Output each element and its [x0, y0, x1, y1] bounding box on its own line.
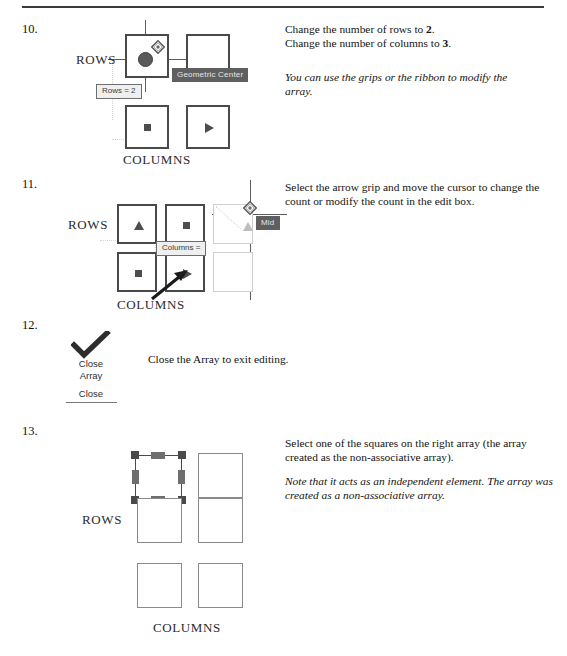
close-array-button-line1[interactable]: Close [66, 358, 116, 370]
document-page: 10. Geometric Center Rows = 2 RO [0, 0, 567, 656]
step-number-13: 13. [22, 424, 38, 439]
rows-axis-label-13: ROWS [82, 512, 122, 528]
base-point-glyph [144, 124, 151, 131]
close-array-button-line2[interactable]: Array [66, 370, 116, 382]
selection-grip-top-right[interactable] [178, 451, 186, 459]
step-11-instruction: Select the arrow grip and move the curso… [285, 180, 560, 208]
columns-axis-label-11: COLUMNS [117, 297, 185, 313]
columns-axis-label-10: COLUMNS [123, 152, 191, 168]
selection-grip-top-left[interactable] [131, 451, 139, 459]
base-point-grip-icon[interactable] [138, 52, 153, 67]
ribbon-panel-label-close: Close [66, 388, 116, 400]
array13-cell-r3c2[interactable] [198, 563, 243, 608]
step-10-note: You can use the grips or the ribbon to m… [285, 70, 535, 98]
array13-cell-r3c1[interactable] [137, 563, 182, 608]
row-arrow-grip-glyph[interactable] [134, 221, 144, 230]
edit-box-rows[interactable]: Rows = 2 [96, 84, 142, 99]
step-10-instr1-after: . [432, 23, 435, 35]
tooltip-grip-11: Mid [256, 216, 280, 230]
array11-ghost-cell-r2c3 [213, 252, 253, 292]
edit-box-columns[interactable]: Columns = [156, 241, 206, 256]
array11-cell-r1c1[interactable] [117, 204, 157, 244]
move-grip-diamond-icon[interactable] [151, 40, 165, 54]
move-grip-diamond-icon-11[interactable] [243, 201, 257, 215]
step-13-note: Note that it acts as an independent elem… [285, 474, 559, 502]
step-10-instr2-after: . [448, 37, 451, 49]
cell-point-glyph-11b [135, 270, 142, 277]
step-number-10: 10. [22, 22, 38, 37]
ribbon-panel-divider [66, 402, 117, 403]
rows-axis-label-10: ROWS [76, 52, 116, 68]
header-divider [22, 6, 544, 8]
array13-cell-r1c2[interactable] [198, 453, 243, 498]
array-cell-r2c1[interactable] [125, 105, 169, 149]
step-number-12: 12. [22, 318, 38, 333]
step-10-instr2-before: Change the number of columns to [285, 37, 443, 49]
columns-axis-label-13: COLUMNS [153, 620, 221, 636]
step-12-instruction: Close the Array to exit editing. [148, 352, 408, 366]
page-header-text [60, 0, 320, 5]
step-number-11: 11. [22, 177, 37, 192]
column-arrow-grip-glyph[interactable] [205, 123, 214, 133]
selection-grip-right-mid[interactable] [178, 470, 185, 484]
array11-cell-r1c2[interactable] [165, 204, 205, 244]
step-10-instr1-before: Change the number of rows to [285, 23, 426, 35]
rows-axis-label-11: ROWS [68, 217, 108, 233]
array13-cell-r2c2[interactable] [198, 498, 243, 543]
selection-grip-left-mid[interactable] [132, 470, 139, 484]
array13-cell-r2c1[interactable] [137, 498, 182, 543]
step-13-instruction: Select one of the squares on the right a… [285, 436, 559, 464]
selection-grip-top-mid[interactable] [151, 452, 165, 459]
array-cell-r2c2[interactable] [186, 105, 230, 149]
cell-point-glyph-11a [183, 222, 190, 229]
step-10-instruction-line-1: Change the number of rows to 2. [285, 22, 557, 36]
step-10-instruction-line-2: Change the number of columns to 3. [285, 36, 557, 50]
tooltip-geometric-center: Geometric Center [172, 68, 248, 82]
stretch-grip-triangle-icon[interactable] [243, 222, 253, 231]
